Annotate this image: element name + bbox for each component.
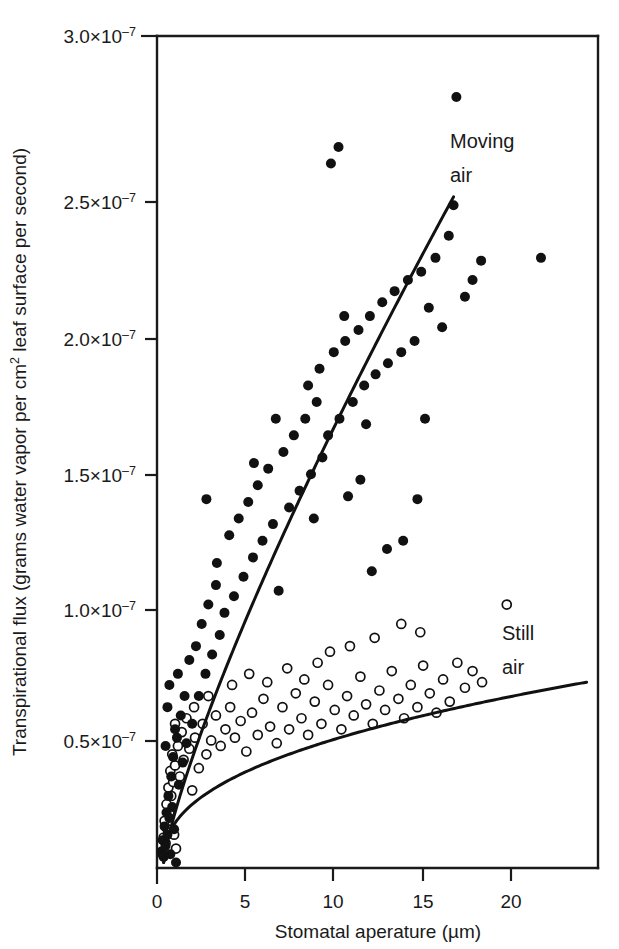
still-air-label-line1: Still [502,622,534,644]
data-point [266,722,275,731]
data-point [242,747,251,756]
data-point [278,447,288,457]
y-axis-title: Transpirational flux (grams water vapor … [8,148,30,756]
y-ticklabel-1.5: 1.5×10–7 [63,464,136,486]
data-point [340,336,350,346]
data-point [178,758,188,768]
data-point [343,491,353,501]
y-ticklabel-2.0: 2.0×10–7 [63,328,136,350]
data-point [377,297,387,307]
data-point [263,464,273,474]
data-point [394,694,403,703]
data-point [536,253,546,263]
data-point [362,700,371,709]
data-point [211,580,221,590]
still-air-points [158,600,511,859]
data-point [197,619,207,629]
data-point [416,267,426,277]
data-point [271,414,281,424]
x-ticklabel-10: 10 [322,891,343,912]
data-point [188,786,197,795]
scatter-plot-svg: 3.0×10–7 2.5×10–7 2.0×10–7 1.5×10–7 1.0×… [0,0,619,949]
data-point [444,231,454,241]
data-point [204,692,213,701]
y-ticklabel-1.0: 1.0×10–7 [63,599,136,621]
data-point [420,414,430,424]
data-point [253,730,262,739]
data-point [424,303,434,313]
data-point [258,536,268,546]
data-point [166,771,176,781]
data-point [416,628,425,637]
data-point [478,678,487,687]
data-point [309,514,319,524]
data-point [502,600,511,609]
data-point [170,724,180,734]
data-point [381,705,390,714]
data-point [191,641,201,651]
data-point [194,691,204,701]
data-point [410,336,420,346]
data-point [201,494,211,504]
data-point [367,566,377,576]
data-point [359,380,369,390]
data-point [356,672,365,681]
data-point [330,705,339,714]
data-point [202,750,211,759]
x-axis-title: Stomatal aperature (µm) [275,921,481,942]
x-ticklabel-20: 20 [500,891,521,912]
data-point [253,480,263,490]
data-point [324,680,333,689]
data-point [468,275,478,285]
data-point [383,358,393,368]
data-point [238,572,248,582]
data-point [245,669,254,678]
data-point [171,857,181,867]
data-point [215,630,225,640]
data-point [325,647,334,656]
data-point [172,733,182,743]
y-axis-tick-labels: 3.0×10–7 2.5×10–7 2.0×10–7 1.5×10–7 1.0×… [63,25,136,752]
data-point [355,475,365,485]
data-point [228,680,237,689]
data-point [387,667,396,676]
data-point [297,714,306,723]
data-point [460,683,469,692]
still-air-annotation: Still air [502,622,534,678]
data-point [181,738,191,748]
x-axis-ticks [157,868,511,884]
data-point [337,725,346,734]
y-ticklabel-3.0: 3.0×10–7 [63,25,136,47]
data-point [229,591,239,601]
moving-air-label-line2: air [450,164,473,186]
moving-air-fit-curve [164,197,454,863]
x-ticklabel-0: 0 [152,891,163,912]
data-point [216,741,225,750]
data-point [274,586,284,596]
moving-air-annotation: Moving air [450,130,514,186]
data-point [353,325,363,335]
data-point [468,667,477,676]
data-point [476,256,486,266]
data-point [329,347,339,357]
data-point [300,414,310,424]
data-point [349,711,358,720]
data-point [219,608,229,618]
data-point [176,710,186,720]
data-point [207,736,216,745]
data-point [375,686,384,695]
data-point [194,764,203,773]
data-point [236,717,245,726]
data-point [390,286,400,296]
moving-air-label-line1: Moving [450,130,514,152]
x-ticklabel-5: 5 [240,891,251,912]
data-point [249,458,259,468]
data-point [263,678,272,687]
data-point [413,703,422,712]
data-point [226,703,235,712]
data-point [248,708,257,717]
data-point [315,364,325,374]
data-point [248,552,258,562]
data-point [451,92,461,102]
data-point [371,369,381,379]
